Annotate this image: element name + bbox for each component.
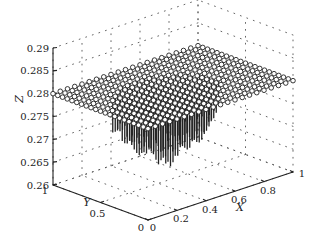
y-tick-label: 0.5 (90, 208, 106, 219)
data-point (146, 126, 151, 131)
data-point (65, 97, 70, 102)
z-tick-label: 0.265 (20, 157, 49, 168)
data-point (167, 119, 172, 124)
x-tick (203, 199, 206, 201)
data-point (131, 121, 136, 126)
grid-line (169, 147, 264, 182)
data-point (153, 124, 158, 129)
y-tick (101, 201, 105, 202)
data-point (89, 105, 94, 110)
z-tick (53, 48, 57, 49)
z-axis-title: Z (13, 95, 26, 104)
data-point (108, 112, 113, 117)
data-point (141, 125, 146, 130)
z-tick-label: 0.29 (27, 43, 49, 54)
data-point (51, 91, 56, 96)
data-point (240, 95, 245, 100)
x-tick (261, 180, 264, 182)
data-point (204, 107, 209, 112)
data-point (127, 119, 132, 124)
x-tick-label: 1 (299, 168, 305, 179)
z-tick (53, 70, 57, 71)
data-point (175, 117, 180, 122)
data-point (291, 78, 296, 83)
z-tick-label: 0.285 (20, 65, 49, 76)
data-point (269, 86, 274, 91)
data-point (70, 98, 75, 103)
data-point (283, 81, 288, 86)
data-point (218, 102, 223, 107)
z-tick (53, 116, 57, 117)
data-point (211, 105, 216, 110)
3d-scatter-plot: 0.260.2650.270.2750.280.2850.2900.20.40.… (0, 0, 312, 231)
x-tick-label: 0 (150, 222, 156, 231)
y-tick (148, 219, 152, 220)
data-point (233, 98, 238, 103)
data-point (196, 110, 201, 115)
x-tick (174, 209, 177, 211)
grid-line (111, 166, 206, 201)
data-point (117, 116, 122, 121)
data-point (84, 104, 89, 109)
data-point (55, 93, 60, 98)
y-tick-label: 0 (138, 222, 144, 231)
data-point (122, 118, 127, 123)
z-tick (53, 139, 57, 140)
x-tick (232, 190, 235, 192)
x-tick-label: 0.2 (173, 213, 189, 224)
data-point (74, 100, 79, 105)
x-axis (148, 172, 293, 220)
x-tick (145, 219, 148, 221)
data-point (112, 114, 117, 119)
data-point (136, 123, 141, 128)
data-point (262, 88, 267, 93)
grid-line (140, 156, 235, 191)
data-point (247, 93, 252, 98)
z-tick-label: 0.27 (27, 134, 49, 145)
x-axis-title: X (235, 201, 245, 214)
data-point (225, 100, 230, 105)
data-point (276, 83, 281, 88)
z-tick-label: 0.275 (20, 111, 49, 122)
grid-line (53, 137, 198, 185)
x-tick-label: 0.8 (260, 185, 276, 196)
x-tick-label: 0.4 (202, 204, 218, 215)
grid-line (53, 0, 198, 48)
z-tick (53, 162, 57, 163)
data-point (93, 107, 98, 112)
data-point (103, 111, 108, 116)
data-point (60, 95, 65, 100)
data-point (254, 90, 259, 95)
y-tick-label: 1 (42, 185, 48, 196)
data-point (189, 112, 194, 117)
data-point (160, 122, 165, 127)
surface-markers (51, 43, 296, 131)
data-point (98, 109, 103, 114)
z-tick-label: 0.28 (27, 88, 49, 99)
data-point (79, 102, 84, 107)
data-point (182, 114, 187, 119)
x-tick (290, 171, 293, 173)
grid-line (82, 175, 177, 210)
